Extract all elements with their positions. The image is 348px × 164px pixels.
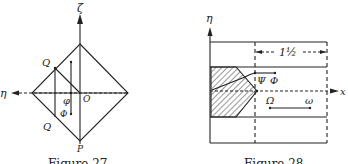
hatched-tip-dot bbox=[256, 90, 258, 92]
eta-label: η bbox=[206, 12, 213, 25]
omega-large-point bbox=[269, 107, 271, 109]
phi-large-label: Φ bbox=[270, 75, 278, 86]
dimension-label: 1½ bbox=[279, 46, 297, 59]
omega-small-label: ω bbox=[305, 95, 313, 106]
figure-27-caption: Figure 27 bbox=[48, 157, 108, 164]
figure-canvas: ζ η Q Q φ Φ O P Figure 27 bbox=[0, 0, 348, 164]
psi-point bbox=[254, 72, 256, 74]
phi-small-label: φ bbox=[63, 95, 70, 106]
x-label: x bbox=[340, 86, 346, 97]
psi-label: Ψ bbox=[257, 75, 267, 86]
dimension-arrow-left-icon bbox=[256, 50, 262, 54]
phi-large-label: Φ bbox=[60, 109, 67, 119]
figure-28-caption: Figure 28 bbox=[244, 157, 304, 164]
eta-label-left: η bbox=[0, 87, 7, 100]
x-axis-arrow-icon bbox=[330, 89, 339, 94]
phi-point bbox=[70, 92, 72, 94]
eta-axis-arrow-icon bbox=[208, 27, 213, 36]
p-label: P bbox=[76, 144, 84, 154]
figure-27 bbox=[11, 14, 128, 144]
phi-segment-bottom-dot bbox=[70, 113, 72, 115]
q-lower-label: Q bbox=[43, 121, 51, 132]
eta-axis-arrow-icon bbox=[11, 91, 19, 96]
q-o-segment bbox=[55, 68, 80, 93]
origin-label: O bbox=[83, 94, 91, 104]
figure-27-labels: ζ η Q Q φ Φ O P Figure 27 bbox=[0, 2, 108, 164]
phi-segment-top-dot bbox=[70, 61, 72, 63]
q-upper-dot bbox=[54, 67, 56, 69]
phi-point bbox=[274, 72, 276, 74]
dimension-arrow-right-icon bbox=[320, 50, 326, 54]
omega-small-point bbox=[309, 107, 311, 109]
omega-large-label: Ω bbox=[265, 95, 274, 106]
q-upper-label: Q bbox=[42, 57, 50, 68]
zeta-axis-arrow-icon bbox=[77, 14, 83, 24]
zeta-label: ζ bbox=[77, 2, 84, 15]
